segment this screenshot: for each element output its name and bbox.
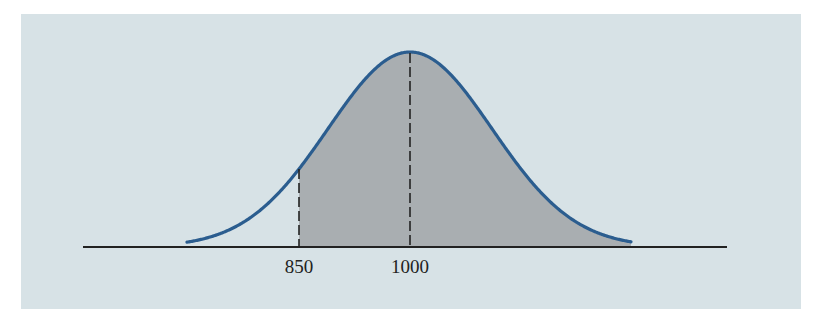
tick-label-1000: 1000 bbox=[391, 256, 429, 277]
tick-label-850: 850 bbox=[285, 256, 314, 277]
normal-curve-chart: 850 1000 bbox=[0, 0, 828, 316]
shaded-area bbox=[299, 52, 631, 247]
